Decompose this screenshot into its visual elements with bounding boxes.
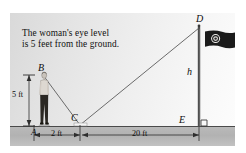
point-label-b: B <box>38 62 44 73</box>
point-label-d: D <box>196 13 203 24</box>
mirror-icon <box>74 123 87 126</box>
flag-icon <box>205 30 235 52</box>
figure-caption: The woman's eye level is 5 feet from the… <box>22 28 119 50</box>
right-angle-marker-icon-2 <box>201 120 207 126</box>
dimension-label-eye-height: 5 ft <box>12 90 23 99</box>
dimension-label-2ft: 2 ft <box>51 129 62 138</box>
caption-line-2: is 5 feet from the ground. <box>22 39 119 50</box>
point-label-c: C <box>71 112 78 123</box>
right-angle-marker-icon <box>201 120 207 126</box>
dimension-arrow-5ft-down <box>27 120 32 126</box>
dimension-arrow-5ft-up <box>27 75 32 81</box>
dimension-arrow-2ft-right <box>74 133 80 137</box>
woman-figure-icon <box>37 71 52 127</box>
dimension-label-20ft: 20 ft <box>132 129 147 138</box>
flagpole-finial-icon <box>198 25 201 28</box>
height-label-h: h <box>187 66 192 77</box>
dimension-arrow-20ft-left <box>82 133 88 137</box>
caption-line-1: The woman's eye level <box>22 28 119 39</box>
point-label-e: E <box>179 114 185 125</box>
geometry-figure: The woman's eye level is 5 feet from the… <box>10 13 235 146</box>
point-label-a: A <box>31 127 37 137</box>
dimension-arrow-20ft-right <box>193 133 199 137</box>
